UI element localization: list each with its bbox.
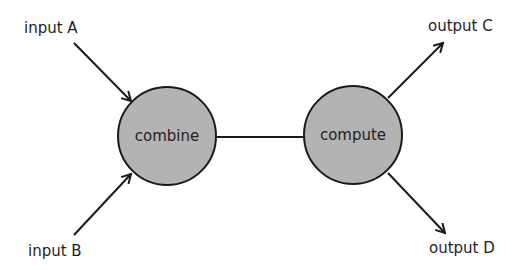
node-compute: compute bbox=[304, 86, 402, 184]
edge-compute-to-output-d bbox=[388, 173, 445, 233]
diagram-canvas: combine compute input A input B output C… bbox=[0, 0, 519, 270]
compute-label: compute bbox=[320, 126, 386, 144]
output-c-label: output C bbox=[428, 17, 493, 35]
input-b-label: input B bbox=[28, 242, 82, 260]
flow-diagram: combine compute input A input B output C… bbox=[0, 0, 519, 270]
combine-label: combine bbox=[135, 127, 199, 145]
edge-input-b-to-combine bbox=[74, 174, 131, 235]
output-d-label: output D bbox=[429, 239, 495, 257]
edge-compute-to-output-c bbox=[388, 43, 443, 98]
input-a-label: input A bbox=[24, 19, 78, 37]
node-combine: combine bbox=[118, 87, 216, 185]
edge-input-a-to-combine bbox=[74, 43, 131, 101]
